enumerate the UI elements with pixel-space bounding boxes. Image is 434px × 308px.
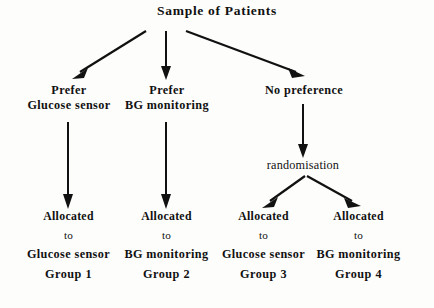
edge-no-preference-to-randomisation xyxy=(298,104,308,158)
outcome-to-label: to xyxy=(290,230,427,241)
flowchart-canvas: Sample of Patients Prefer Glucose sensor… xyxy=(0,0,434,308)
edge-prefer-bg-to-group2 xyxy=(161,122,171,209)
edge-root-to-no-preference xyxy=(186,31,305,78)
branch-node-prefer-bg: Prefer BG monitoring xyxy=(98,84,236,111)
outcome-group-label: Group 4 xyxy=(290,268,427,280)
root-node: Sample of Patients xyxy=(0,4,434,18)
outcome-arm-label: BG monitoring xyxy=(290,248,427,260)
branch-node-no-preference: No preference xyxy=(235,84,373,96)
randomisation-label: randomisation xyxy=(267,158,339,172)
edge-prefer-glucose-to-group1 xyxy=(63,122,73,209)
outcome-allocated-label: Allocated xyxy=(290,211,427,223)
root-label: Sample of Patients xyxy=(157,3,277,18)
edge-root-to-prefer-bg xyxy=(161,31,171,80)
edge-root-to-prefer-glucose xyxy=(72,31,146,79)
branch-label-line2: BG monitoring xyxy=(98,99,236,111)
branch-label-line1: Prefer xyxy=(98,84,236,96)
edge-randomisation-to-group4 xyxy=(307,176,361,208)
outcome-node-group-4: Allocated to BG monitoring Group 4 xyxy=(290,211,427,280)
edge-randomisation-to-group3 xyxy=(262,176,305,208)
branch-label-line1: No preference xyxy=(235,84,373,96)
randomisation-node: randomisation xyxy=(236,159,370,171)
